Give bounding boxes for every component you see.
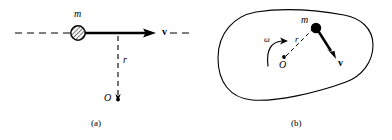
angular-velocity-label-b: ω bbox=[264, 36, 270, 44]
mass-marker-a bbox=[71, 26, 85, 40]
caption-b: (b) bbox=[291, 119, 302, 128]
velocity-label-a: v bbox=[162, 27, 167, 37]
radius-label-b: r bbox=[295, 35, 299, 44]
velocity-arrow-shaft-b bbox=[317, 29, 331, 51]
caption-a: (a) bbox=[91, 119, 101, 128]
panel-a: m v r O (a) bbox=[0, 0, 196, 140]
radius-line-b bbox=[286, 29, 313, 56]
origin-label-b: O bbox=[279, 60, 286, 70]
velocity-label-b: v bbox=[338, 58, 343, 68]
origin-point-a bbox=[116, 98, 120, 102]
panel-b: m v r O ω (b) bbox=[196, 0, 392, 140]
radius-label-a: r bbox=[123, 55, 127, 65]
origin-label-a: O bbox=[104, 93, 111, 103]
figure-root: m v r O (a) m v r O bbox=[0, 0, 392, 140]
mass-label-a: m bbox=[74, 9, 81, 19]
body-outline-b bbox=[218, 10, 373, 100]
mass-label-b: m bbox=[301, 15, 308, 25]
mass-marker-b bbox=[311, 23, 321, 33]
